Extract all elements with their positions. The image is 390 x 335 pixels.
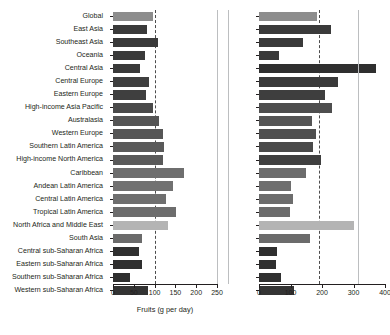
- category-label: Global: [0, 10, 107, 23]
- bar-row: [113, 23, 217, 36]
- bar: [113, 38, 158, 48]
- bar: [259, 77, 338, 87]
- category-label: High-income Asia Pacific: [0, 101, 107, 114]
- x-tick: [196, 284, 197, 288]
- bar: [113, 247, 139, 257]
- category-label: Central Asia: [0, 62, 107, 75]
- bar-row: [113, 127, 217, 140]
- bar: [259, 260, 276, 270]
- x-tick-label: 50: [130, 289, 138, 296]
- y-tick: [110, 55, 113, 56]
- y-tick: [256, 212, 259, 213]
- x-tick: [259, 284, 260, 288]
- y-tick: [110, 238, 113, 239]
- category-label: Tropical Latin America: [0, 206, 107, 219]
- bar-row: [113, 245, 217, 258]
- bar: [259, 194, 293, 204]
- y-tick: [110, 120, 113, 121]
- category-label: Central Latin America: [0, 193, 107, 206]
- x-tick-label: 100: [149, 289, 161, 296]
- bar: [113, 77, 149, 87]
- bar-row: [259, 75, 385, 88]
- x-tick-label: 400: [379, 289, 390, 296]
- bar-row: [259, 114, 385, 127]
- y-tick: [256, 160, 259, 161]
- bar-row: [113, 180, 217, 193]
- bar: [113, 129, 163, 139]
- bar-row: [259, 271, 385, 284]
- x-tick: [322, 284, 323, 288]
- bar-row: [259, 10, 385, 23]
- x-tick-label: 300: [348, 289, 360, 296]
- bar: [113, 116, 159, 126]
- bar-row: [113, 62, 217, 75]
- y-tick: [256, 107, 259, 108]
- x-tick-label: 100: [285, 289, 297, 296]
- y-tick: [110, 42, 113, 43]
- y-tick: [110, 29, 113, 30]
- bar-row: [259, 219, 385, 232]
- bar: [259, 221, 354, 231]
- x-tick: [385, 284, 386, 288]
- category-label: Central sub-Saharan Africa: [0, 245, 107, 258]
- bar-row: [259, 49, 385, 62]
- x-tick-label: 0: [111, 289, 115, 296]
- bar-row: [259, 232, 385, 245]
- bar: [259, 168, 306, 178]
- bar: [113, 221, 168, 231]
- bar: [113, 168, 184, 178]
- y-tick: [110, 94, 113, 95]
- bar: [113, 103, 153, 113]
- bar-row: [113, 219, 217, 232]
- x-tick: [291, 284, 292, 288]
- y-tick: [110, 160, 113, 161]
- x-tick: [134, 284, 135, 288]
- bar: [259, 129, 316, 139]
- x-tick-label: 0: [257, 289, 261, 296]
- bar-row: [259, 206, 385, 219]
- x-axis-fruits: [113, 284, 218, 285]
- category-label: Southern Latin America: [0, 140, 107, 153]
- y-tick: [110, 173, 113, 174]
- x-tick-label: 200: [316, 289, 328, 296]
- x-tick: [155, 284, 156, 288]
- category-label: Southeast Asia: [0, 36, 107, 49]
- y-tick: [256, 238, 259, 239]
- y-tick: [110, 146, 113, 147]
- x-tick-label: 150: [170, 289, 182, 296]
- y-tick: [110, 251, 113, 252]
- category-label: South Asia: [0, 232, 107, 245]
- bar-row: [259, 167, 385, 180]
- bar-row: [113, 232, 217, 245]
- bar-row: [113, 88, 217, 101]
- category-label: Australasia: [0, 114, 107, 127]
- category-label: Western sub-Saharan Africa: [0, 284, 107, 297]
- bar-row: [259, 23, 385, 36]
- y-tick: [110, 133, 113, 134]
- y-tick: [110, 107, 113, 108]
- bar-row: [113, 36, 217, 49]
- bar-row: [259, 154, 385, 167]
- bar-row: [113, 271, 217, 284]
- y-tick: [256, 251, 259, 252]
- bar: [259, 25, 331, 35]
- y-tick: [256, 68, 259, 69]
- panel-divider-rule-fruits: [217, 10, 218, 284]
- bar: [259, 90, 325, 100]
- category-label: East Asia: [0, 23, 107, 36]
- x-tick-label: 200: [190, 289, 202, 296]
- category-label: Eastern Europe: [0, 88, 107, 101]
- bar: [113, 234, 142, 244]
- bar-row: [113, 193, 217, 206]
- y-tick: [256, 94, 259, 95]
- bar: [113, 12, 153, 22]
- bar: [113, 90, 146, 100]
- y-tick: [256, 81, 259, 82]
- plot-area-fruits: [113, 10, 217, 284]
- bar: [113, 51, 145, 61]
- bar-row: [113, 10, 217, 23]
- bar: [259, 103, 332, 113]
- bar-row: [113, 114, 217, 127]
- y-tick: [110, 225, 113, 226]
- x-tick: [175, 284, 176, 288]
